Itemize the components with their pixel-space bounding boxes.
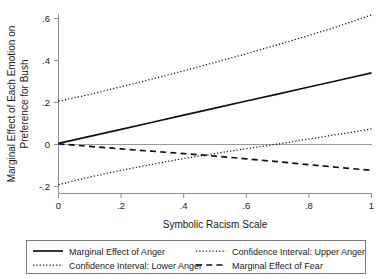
x-tick-label-1: 1 bbox=[369, 200, 374, 211]
y-axis-title-line1: Marginal Effect of Each Emotion on bbox=[6, 26, 17, 183]
x-tick-label-0.2: .2 bbox=[117, 200, 125, 211]
marginal-effects-line-chart: .6 .4 .2 0 -.2 0 .2 .4 .6 .8 1 Symbolic … bbox=[0, 0, 392, 279]
x-tick-label-0: 0 bbox=[56, 200, 61, 211]
y-tick-label--0.2: -.2 bbox=[39, 181, 50, 192]
x-tick-label-0.4: .4 bbox=[180, 200, 188, 211]
legend-label-marginal-effect-of-anger: Marginal Effect of Anger bbox=[69, 247, 165, 257]
y-tick-label-0: 0 bbox=[45, 139, 50, 150]
legend-label-confidence-interval-upper-anger: Confidence Interval: Upper Anger bbox=[232, 247, 365, 257]
y-axis-title-line2: Preference for Bush bbox=[19, 60, 30, 149]
legend-label-marginal-effect-of-fear: Marginal Effect of Fear bbox=[232, 261, 323, 271]
y-tick-label-0.6: .6 bbox=[42, 13, 50, 24]
chart-figure: .6 .4 .2 0 -.2 0 .2 .4 .6 .8 1 Symbolic … bbox=[0, 0, 392, 279]
x-tick-label-0.8: .8 bbox=[305, 200, 313, 211]
legend-label-confidence-interval-lower-anger: Confidence Interval: Lower Anger bbox=[69, 261, 202, 271]
x-tick-label-0.6: .6 bbox=[242, 200, 250, 211]
y-tick-label-0.2: .2 bbox=[42, 97, 50, 108]
x-axis-title: Symbolic Racism Scale bbox=[163, 219, 268, 230]
y-tick-label-0.4: .4 bbox=[42, 55, 50, 66]
